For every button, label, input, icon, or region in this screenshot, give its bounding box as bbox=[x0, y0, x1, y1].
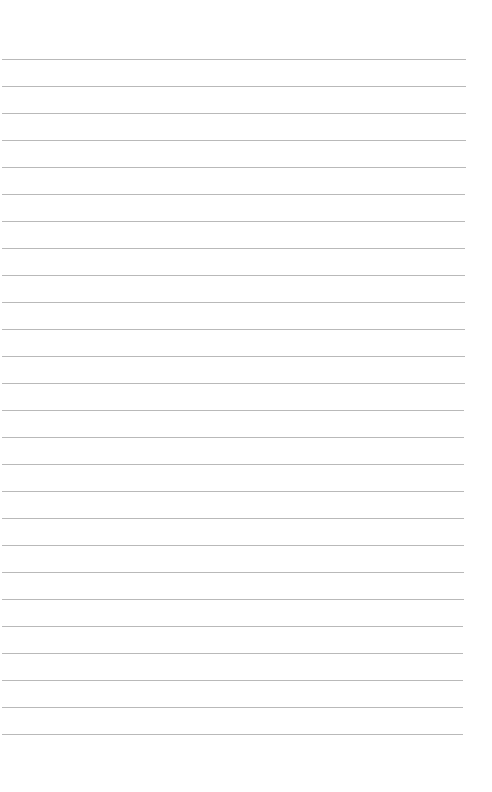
ruled-line bbox=[2, 653, 463, 654]
ruled-line bbox=[2, 410, 464, 411]
ruled-line bbox=[2, 437, 464, 438]
ruled-line bbox=[2, 194, 465, 195]
lined-paper-page bbox=[0, 0, 492, 792]
ruled-line bbox=[2, 356, 465, 357]
ruled-line bbox=[2, 221, 465, 222]
ruled-line bbox=[2, 248, 465, 249]
ruled-line bbox=[2, 572, 464, 573]
ruled-line bbox=[2, 626, 463, 627]
ruled-line bbox=[2, 518, 464, 519]
ruled-line bbox=[2, 599, 464, 600]
ruled-line bbox=[2, 167, 466, 168]
ruled-line bbox=[2, 113, 466, 114]
ruled-line bbox=[2, 383, 465, 384]
ruled-line bbox=[2, 140, 466, 141]
ruled-line bbox=[2, 734, 463, 735]
ruled-line bbox=[2, 59, 466, 60]
ruled-line bbox=[2, 680, 463, 681]
ruled-line bbox=[2, 275, 465, 276]
ruled-line bbox=[2, 707, 463, 708]
ruled-line bbox=[2, 302, 465, 303]
ruled-line bbox=[2, 86, 466, 87]
ruled-line bbox=[2, 491, 464, 492]
ruled-line bbox=[2, 545, 464, 546]
ruled-line bbox=[2, 329, 465, 330]
ruled-line bbox=[2, 464, 464, 465]
